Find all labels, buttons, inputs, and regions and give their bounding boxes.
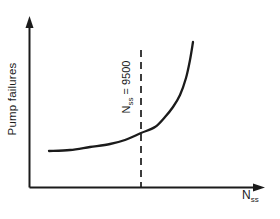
figure-canvas [0,0,280,219]
threshold-label-subscript: ss [126,98,135,106]
threshold-label-value: = 9500 [120,61,132,98]
threshold-label-symbol: N [120,106,132,114]
x-axis-label-subscript: ss [251,195,259,204]
figure: Pump failures Nss = 9500 Nss [0,0,280,219]
x-axis-label: Nss [242,188,259,202]
y-axis-label: Pump failures [6,44,20,154]
x-axis-label-symbol: N [242,188,251,202]
threshold-label: Nss = 9500 [120,52,134,122]
